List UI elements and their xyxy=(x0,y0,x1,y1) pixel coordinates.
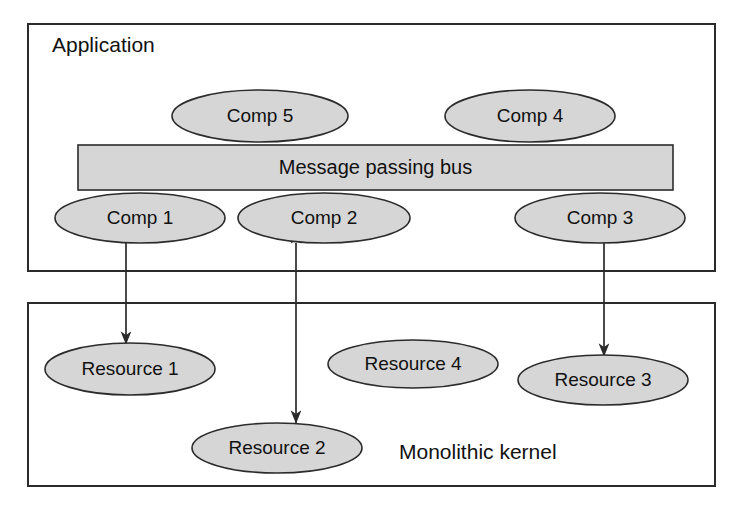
application-label: Application xyxy=(52,33,155,56)
comp-5-label: Comp 5 xyxy=(227,105,294,126)
resource-4-label: Resource 4 xyxy=(364,353,462,374)
resource-2-label: Resource 2 xyxy=(228,437,325,458)
message-passing-bus[interactable]: Message passing bus xyxy=(78,145,673,190)
resource-4[interactable]: Resource 4 xyxy=(328,340,498,388)
comp-1[interactable]: Comp 1 xyxy=(55,193,225,243)
comp-4[interactable]: Comp 4 xyxy=(445,90,615,142)
resources-layer: Resource 1Resource 4Resource 3Resource 2 xyxy=(45,340,688,473)
resource-1-label: Resource 1 xyxy=(81,358,178,379)
resource-2[interactable]: Resource 2 xyxy=(192,423,362,473)
comp-1-label: Comp 1 xyxy=(107,207,174,228)
resource-3[interactable]: Resource 3 xyxy=(518,355,688,405)
comp-3-label: Comp 3 xyxy=(567,207,634,228)
comp-5[interactable]: Comp 5 xyxy=(172,90,348,142)
diagram-canvas: Application Monolithic kernel Message pa… xyxy=(0,0,735,510)
comp-2[interactable]: Comp 2 xyxy=(238,193,410,243)
comp-3[interactable]: Comp 3 xyxy=(515,193,685,243)
kernel-label: Monolithic kernel xyxy=(399,440,557,463)
comp-2-label: Comp 2 xyxy=(291,207,358,228)
bus-label: Message passing bus xyxy=(279,156,472,178)
resource-1[interactable]: Resource 1 xyxy=(45,343,215,395)
comp-4-label: Comp 4 xyxy=(497,105,564,126)
resource-3-label: Resource 3 xyxy=(554,369,651,390)
diagram-root: Application Monolithic kernel Message pa… xyxy=(0,0,735,510)
